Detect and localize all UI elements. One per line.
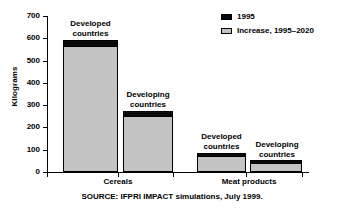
legend-item-increase[interactable]: Increase, 1995–2020 bbox=[221, 26, 314, 35]
bar-label-line1: Developing bbox=[115, 90, 181, 100]
legend-swatch-gray-icon bbox=[221, 28, 232, 34]
legend-item-1995[interactable]: 1995 bbox=[221, 12, 314, 21]
x-tick-b bbox=[173, 172, 174, 177]
bar-label-line2: countries bbox=[243, 150, 311, 160]
bar-label-cereals-developing: Developing countries bbox=[115, 90, 181, 109]
y-tick-label-300: 300 bbox=[27, 100, 40, 109]
chart-legend: 1995 Increase, 1995–2020 bbox=[221, 12, 314, 40]
legend-swatch-black-icon bbox=[221, 14, 232, 20]
x-axis-label-cereals: Cereals bbox=[78, 177, 158, 186]
y-tick-label-600: 600 bbox=[27, 33, 40, 42]
x-axis-line bbox=[47, 172, 309, 173]
bar-meat-developing[interactable] bbox=[250, 160, 302, 172]
y-tick-label-100: 100 bbox=[27, 145, 40, 154]
y-axis-title: Kilograms bbox=[10, 52, 19, 122]
chart-figure: Kilograms 700 600 500 400 300 200 bbox=[0, 0, 344, 211]
bar-cereals-developed[interactable] bbox=[63, 40, 118, 172]
bar-label-cereals-developed: Developed countries bbox=[57, 19, 124, 38]
bar-label-meat-developing: Developing countries bbox=[243, 140, 311, 159]
legend-label-1995: 1995 bbox=[237, 12, 255, 21]
y-tick-label-0: 0 bbox=[36, 167, 40, 176]
bar-segment-increase bbox=[64, 47, 117, 171]
bar-cereals-developing[interactable] bbox=[123, 111, 173, 172]
y-tick-label-400: 400 bbox=[27, 78, 40, 87]
y-tick-label-500: 500 bbox=[27, 56, 40, 65]
bar-meat-developed[interactable] bbox=[197, 153, 246, 172]
y-tick-label-700: 700 bbox=[27, 11, 40, 20]
bar-label-line1: Developed bbox=[57, 19, 124, 29]
legend-label-increase: Increase, 1995–2020 bbox=[237, 26, 314, 35]
bar-segment-increase bbox=[198, 157, 245, 171]
x-tick-start bbox=[47, 172, 48, 177]
bar-segment-increase bbox=[251, 164, 301, 171]
x-tick-d bbox=[302, 172, 303, 177]
bar-label-line1: Developing bbox=[243, 140, 311, 150]
bar-label-line2: countries bbox=[115, 100, 181, 110]
x-axis-label-meat-products: Meat products bbox=[199, 177, 299, 186]
bar-label-line2: countries bbox=[57, 29, 124, 39]
source-note: SOURCE: IFPRI IMPACT simulations, July 1… bbox=[0, 192, 344, 201]
bar-segment-increase bbox=[124, 117, 172, 171]
y-tick-label-200: 200 bbox=[27, 122, 40, 131]
